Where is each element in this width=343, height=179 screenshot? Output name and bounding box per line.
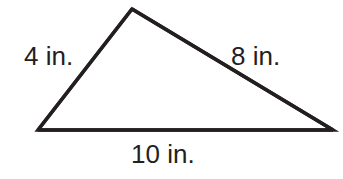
side-length-label-base: 10 in. <box>131 141 195 167</box>
side-length-label-left: 4 in. <box>24 43 73 69</box>
triangle-figure: 4 in. 8 in. 10 in. <box>0 0 343 179</box>
side-length-label-right: 8 in. <box>231 43 280 69</box>
